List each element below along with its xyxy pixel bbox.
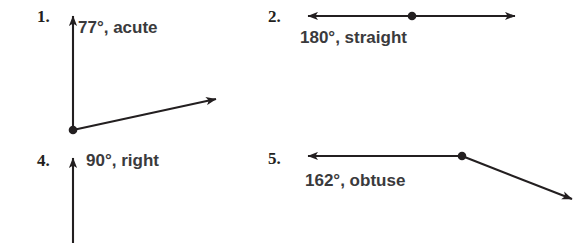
problem-5-number: 5. <box>268 150 281 167</box>
problem-1-vertex-dot <box>69 126 78 135</box>
problem-4-number: 4. <box>37 152 50 169</box>
problem-1-ray-right <box>73 99 216 130</box>
problem-5-answer: 162°, obtuse <box>305 172 405 189</box>
problem-2-number: 2. <box>268 8 281 25</box>
problem-1-answer: 77°, acute <box>78 19 158 36</box>
figure-problem-2 <box>308 12 515 21</box>
problem-5-vertex-dot <box>458 152 467 161</box>
problem-4-answer: 90°, right <box>86 152 159 169</box>
problem-5-ray-down-right <box>462 156 572 199</box>
problem-1-number: 1. <box>37 8 50 25</box>
problem-2-answer: 180°, straight <box>300 29 407 46</box>
worksheet-page: 1. 77°, acute 2. 180°, straight 4. 90°, … <box>0 0 584 243</box>
problem-2-vertex-dot <box>408 12 417 21</box>
